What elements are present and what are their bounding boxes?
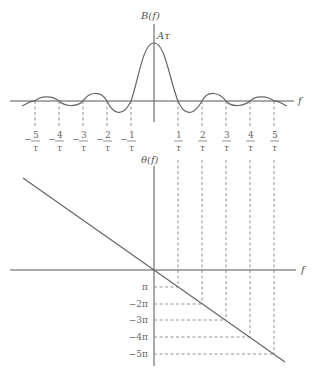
svg-text:τ: τ [272, 143, 278, 153]
svg-text:2: 2 [105, 130, 111, 140]
peak-label: Aτ [156, 30, 170, 41]
svg-text:1: 1 [176, 130, 182, 140]
svg-text:3: 3 [224, 130, 230, 140]
vertical-guide-dashes [178, 160, 274, 354]
phase-tick-3: −3π [129, 315, 148, 325]
svg-text:τ: τ [129, 143, 135, 153]
tick-label-neg-5: − 5 τ [24, 130, 40, 153]
svg-text:4: 4 [248, 130, 254, 140]
phase-tick-2: −2π [129, 299, 148, 309]
svg-text:τ: τ [176, 143, 182, 153]
svg-text:2: 2 [200, 130, 206, 140]
phase-plot: θ(f) f π −2π −3π −4π −5π [10, 154, 307, 366]
svg-text:5: 5 [33, 130, 39, 140]
svg-text:τ: τ [81, 143, 87, 153]
bottom-x-label: f [300, 264, 307, 275]
svg-text:τ: τ [105, 143, 111, 153]
tick-label-pos-3: 3 τ [222, 130, 231, 153]
svg-text:−: − [48, 134, 56, 144]
tick-label-pos-4: 4 τ [246, 130, 255, 153]
bottom-y-label: θ(f) [141, 154, 159, 165]
phase-tick-5: −5π [129, 349, 148, 359]
negative-tick-labels: − 5 τ − 4 τ − 3 τ − 2 τ [24, 130, 136, 153]
tick-label-neg-1: − 1 τ [120, 130, 136, 153]
svg-text:−: − [24, 134, 32, 144]
svg-text:τ: τ [224, 143, 230, 153]
svg-text:−: − [120, 134, 128, 144]
svg-text:1: 1 [129, 130, 135, 140]
svg-text:τ: τ [33, 143, 39, 153]
tick-label-pos-5: 5 τ [270, 130, 279, 153]
spectrum-diagram: B(f) Aτ f − 5 τ − 4 τ − 3 τ [0, 0, 319, 380]
tick-label-neg-4: − 4 τ [48, 130, 64, 153]
horizontal-guide-dashes [154, 287, 274, 354]
svg-text:τ: τ [248, 143, 254, 153]
tick-label-neg-2: − 2 τ [96, 130, 112, 153]
top-y-label: B(f) [140, 10, 160, 21]
phase-tick-4: −4π [129, 332, 148, 342]
svg-text:3: 3 [81, 130, 87, 140]
tick-label-pos-2: 2 τ [198, 130, 207, 153]
top-x-label: f [297, 95, 304, 106]
positive-tick-labels: 1 τ 2 τ 3 τ 4 τ 5 τ [174, 130, 279, 153]
svg-text:5: 5 [272, 130, 278, 140]
svg-text:τ: τ [200, 143, 206, 153]
tick-label-pos-1: 1 τ [174, 130, 183, 153]
svg-text:−: − [72, 134, 80, 144]
amplitude-plot: B(f) Aτ f − 5 τ − 4 τ − 3 τ [10, 10, 304, 153]
phase-tick-1: π [142, 282, 148, 292]
svg-text:4: 4 [57, 130, 63, 140]
svg-text:τ: τ [57, 143, 63, 153]
svg-text:−: − [96, 134, 104, 144]
phase-tick-labels: π −2π −3π −4π −5π [129, 282, 148, 359]
tick-label-neg-3: − 3 τ [72, 130, 88, 153]
